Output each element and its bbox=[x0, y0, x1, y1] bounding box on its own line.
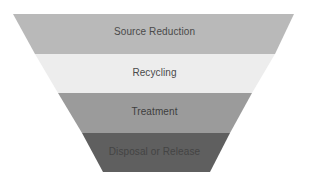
tier-label-recycling: Recycling bbox=[0, 67, 309, 78]
tier-label-disposal: Disposal or Release bbox=[0, 146, 309, 157]
tier-label-source-reduction: Source Reduction bbox=[0, 26, 309, 37]
tier-label-treatment: Treatment bbox=[0, 106, 309, 117]
